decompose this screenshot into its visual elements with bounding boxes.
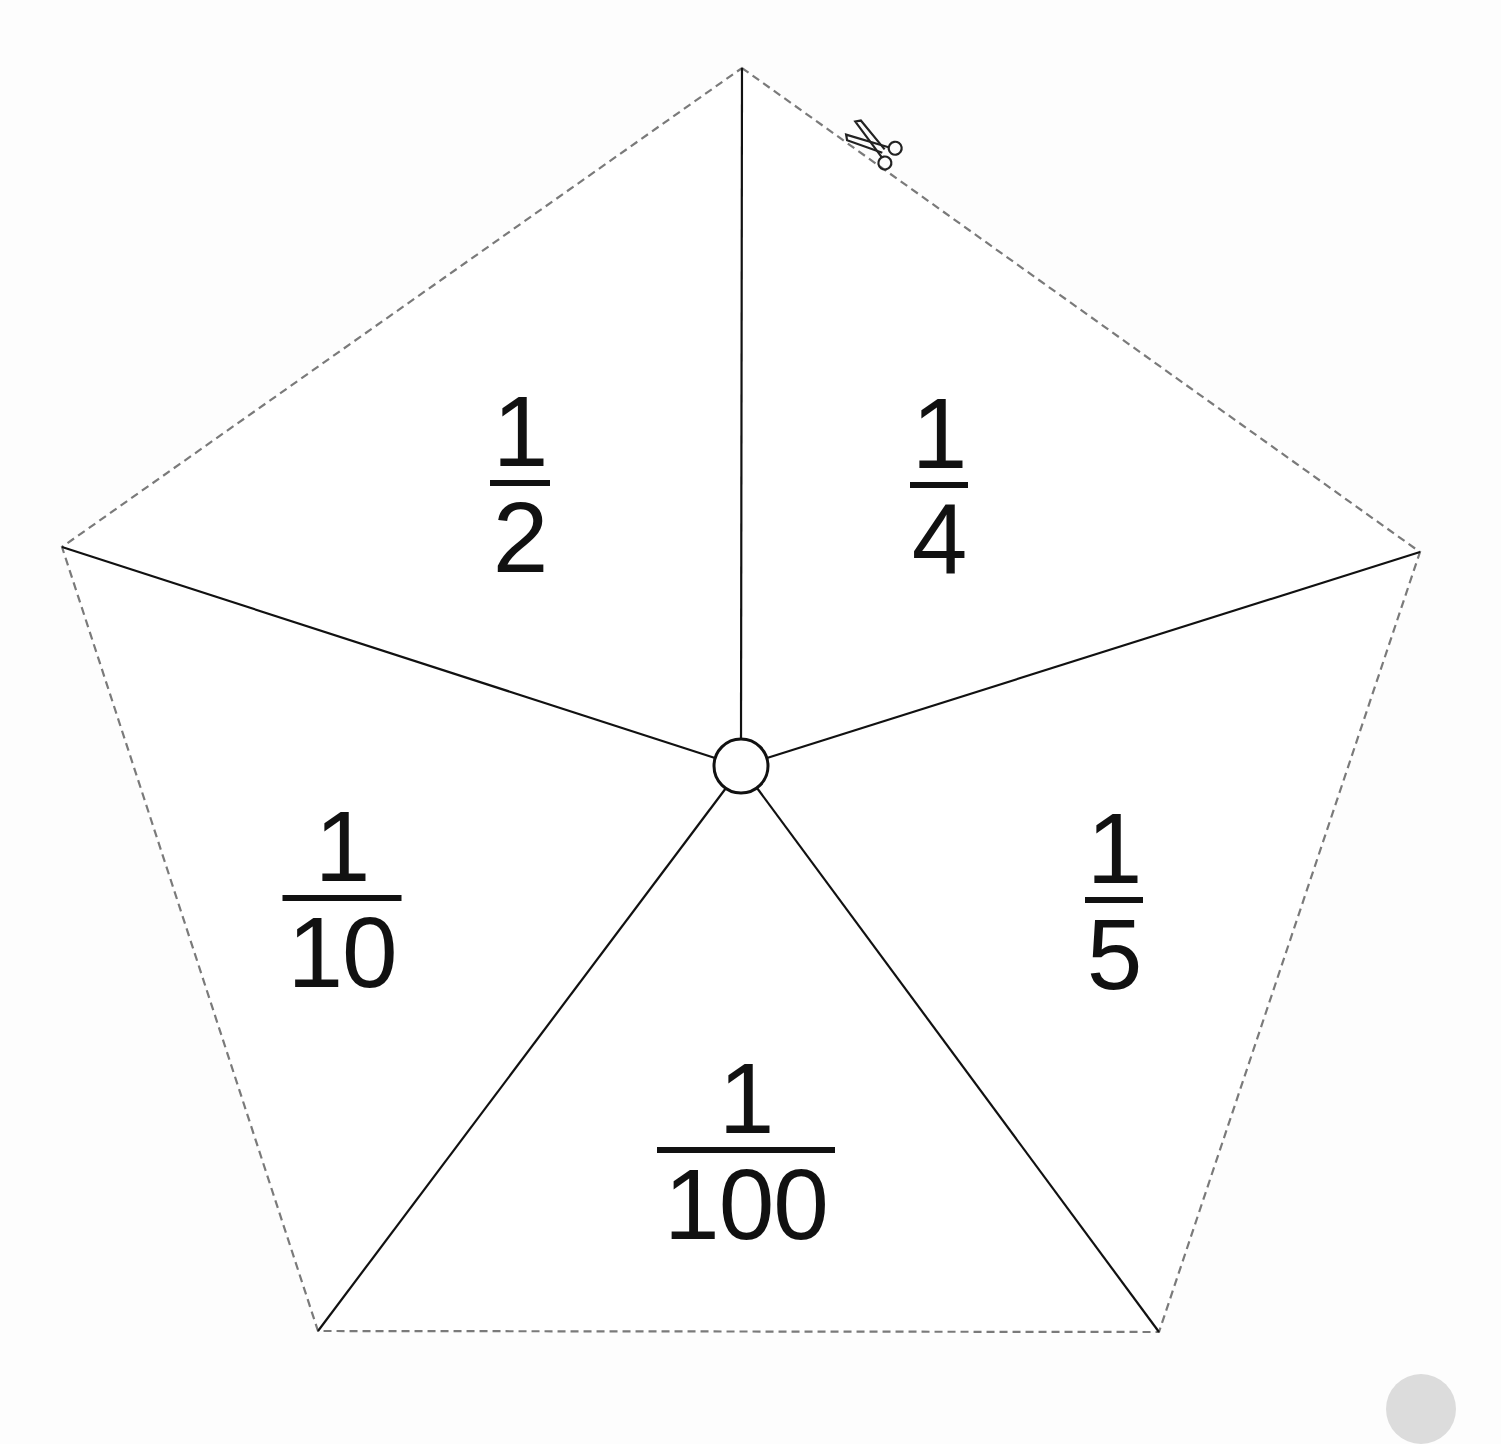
fraction-label-one-half: 1 2	[490, 390, 550, 578]
fraction-label-one-hundredth: 1 100	[657, 1057, 835, 1245]
fraction-denominator: 10	[287, 911, 396, 993]
fraction-label-one-quarter: 1 4	[910, 392, 968, 580]
fraction-numerator: 1	[1087, 807, 1142, 889]
fraction-label-one-fifth: 1 5	[1085, 807, 1143, 995]
page-corner-badge	[1386, 1374, 1456, 1444]
fraction-numerator: 1	[493, 390, 548, 472]
fraction-numerator: 1	[912, 392, 967, 474]
fraction-denominator: 5	[1087, 913, 1142, 995]
fraction-label-one-tenth: 1 10	[283, 805, 402, 993]
fraction-denominator: 100	[664, 1163, 828, 1245]
fraction-denominator: 4	[912, 498, 967, 580]
fraction-numerator: 1	[315, 805, 370, 887]
spoke-top	[741, 68, 742, 739]
fraction-denominator: 2	[493, 496, 548, 578]
fraction-numerator: 1	[719, 1057, 774, 1139]
center-pivot-hole	[714, 739, 768, 793]
